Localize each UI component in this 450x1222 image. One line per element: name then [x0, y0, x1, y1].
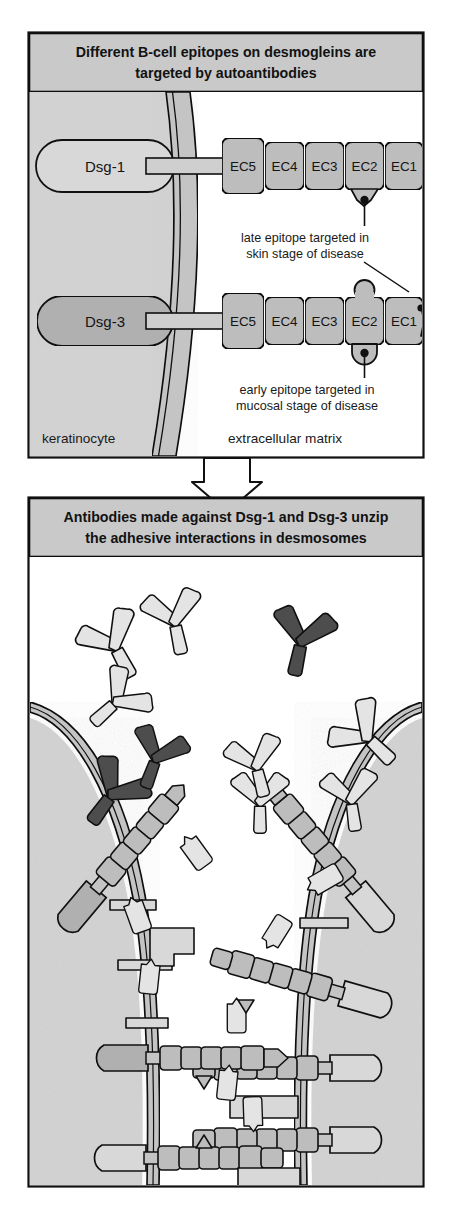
dsg1-domain-EC4-label: EC4 [271, 159, 298, 174]
diagram-canvas: Different B-cell epitopes on desmogleins… [0, 0, 450, 1222]
dsg3-domain-EC5-label: EC5 [230, 314, 256, 329]
late-epitope-line1: late epitope targeted in [241, 231, 369, 245]
dsg3-domain-EC1-label: EC1 [391, 314, 417, 329]
dsg1-transmembrane-linker [146, 158, 226, 174]
dsg3-transmembrane-linker [146, 313, 226, 329]
panel1-header-bar [30, 34, 423, 92]
dsg1-ec-domains: EC5 EC4 EC3 EC2 EC1 [222, 138, 423, 194]
panel-epitopes: Different B-cell epitopes on desmogleins… [29, 33, 439, 458]
dsg1-label: Dsg-1 [85, 158, 125, 175]
figure-root: Different B-cell epitopes on desmogleins… [0, 0, 450, 1222]
early-epitope-line2: mucosal stage of disease [236, 399, 378, 413]
dsg3-ec-domains: EC5 EC4 EC3 EC2 EC1 [222, 293, 423, 349]
dsg3-label: Dsg-3 [85, 313, 125, 330]
desmoglein-chain-mid-2 [96, 1045, 288, 1071]
zone-label-extracellular-matrix: extracellular matrix [228, 431, 342, 446]
late-epitope-line2: skin stage of disease [246, 247, 364, 261]
dsg3-domain-EC3-label: EC3 [311, 314, 337, 329]
dsg3-domain-EC4-label: EC4 [271, 314, 298, 329]
dsg1-domain-EC5-label: EC5 [230, 159, 256, 174]
panel2-title-line2: the adhesive interactions in desmosomes [85, 530, 367, 546]
panel-desmosome-unzipping: Antibodies made against Dsg-1 and Dsg-3 … [29, 498, 424, 1189]
dsg1-epitope-marker-icon [360, 196, 368, 204]
panel2-title-line1: Antibodies made against Dsg-1 and Dsg-3 … [64, 509, 389, 525]
dsg3-epitope-marker-icon [360, 349, 368, 357]
dsg1-domain-EC2-label: EC2 [351, 159, 377, 174]
dsg1-domain-EC3-label: EC3 [311, 159, 337, 174]
panel2-header-bar [30, 499, 423, 557]
desmoglein-chain-mid-4 [94, 1145, 283, 1171]
dsg3-domain-EC2-label: EC2 [351, 314, 377, 329]
zone-label-keratinocyte: keratinocyte [42, 431, 115, 446]
panel1-title-line1: Different B-cell epitopes on desmogleins… [76, 44, 376, 60]
dsg1-domain-EC1-label: EC1 [391, 159, 417, 174]
panel1-title-line2: targeted by autoantibodies [135, 65, 316, 81]
early-epitope-line1: early epitope targeted in [239, 383, 374, 397]
